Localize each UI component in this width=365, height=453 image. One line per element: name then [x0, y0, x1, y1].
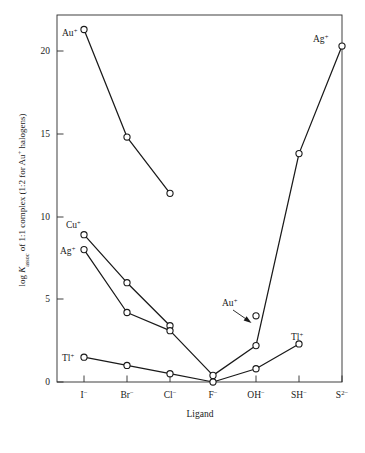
data-point-marker — [253, 366, 259, 372]
y-title-subscript: assoc — [23, 253, 30, 267]
data-point-marker — [167, 328, 173, 334]
inline-label-ag-right: Ag+ — [313, 33, 329, 45]
data-point-marker — [296, 151, 302, 157]
data-point-marker — [124, 309, 130, 315]
y-axis-title: log Kassoc of 1:1 complex (1:2 for Au+ h… — [16, 113, 30, 286]
inline-label-ag-left: Ag+ — [60, 245, 76, 257]
y-tick-label-15: 15 — [41, 129, 51, 139]
data-point-marker — [167, 190, 173, 196]
annotation-label-au-base: Au — [222, 298, 234, 308]
y-title-suffix: of 1:1 complex (1:2 for Au — [17, 154, 27, 253]
inline-label-cu-base: Cu — [66, 220, 77, 230]
inline-label-tl-left-sup: + — [70, 352, 74, 359]
series-markers — [81, 26, 345, 385]
inline-label-cu: Cu+ — [66, 219, 81, 231]
x-label-sh-base: SH — [291, 390, 303, 400]
inline-label-tl-right-sup: + — [299, 331, 303, 338]
inline-label-ag-right-base: Ag — [313, 34, 325, 44]
data-point-marker — [81, 232, 87, 238]
annotation-arrow-head — [244, 316, 252, 323]
data-point-marker — [253, 342, 259, 348]
data-point-marker — [253, 313, 259, 319]
data-point-marker — [210, 372, 216, 378]
x-label-f: F− — [208, 389, 217, 401]
y-tick-label-0: 0 — [45, 377, 50, 387]
y-tick-label-5: 5 — [45, 294, 50, 304]
au-oh-annotation: Au+ — [222, 297, 252, 324]
x-label-i: I− — [81, 389, 88, 401]
x-label-cl-sup: − — [173, 389, 177, 396]
series-line-au — [84, 29, 170, 193]
y-tick-label-20: 20 — [41, 46, 51, 56]
x-label-cl-base: Cl — [164, 390, 173, 400]
inline-label-ag-left-base: Ag — [60, 246, 72, 256]
x-label-oh-sup: − — [261, 389, 265, 396]
inline-label-cu-sup: + — [77, 219, 81, 226]
data-point-marker — [339, 43, 345, 49]
inline-label-au-left-base: Au — [62, 28, 74, 38]
chart-figure: 0 5 10 15 20 log Kassoc of 1:1 complex (… — [0, 0, 365, 453]
series-line-ag — [84, 46, 342, 375]
data-point-marker — [124, 134, 130, 140]
inline-label-au-left: Au+ — [62, 27, 78, 39]
x-label-br: Br− — [120, 389, 134, 401]
y-axis-title-group: log Kassoc of 1:1 complex (1:2 for Au+ h… — [16, 113, 30, 286]
x-label-sh: SH− — [291, 389, 307, 401]
x-axis-title: Ligand — [187, 409, 214, 419]
x-label-s2: S2− — [336, 389, 349, 401]
x-label-f-sup: − — [214, 389, 218, 396]
series-line-tl — [84, 344, 299, 382]
inline-labels: Au+ Ag+ Cu+ Ag+ Tl+ Tl+ — [60, 27, 329, 364]
inline-label-tl-left: Tl+ — [62, 352, 74, 364]
ligand-association-constant-chart: 0 5 10 15 20 log Kassoc of 1:1 complex (… — [0, 0, 365, 453]
data-point-marker — [124, 280, 130, 286]
inline-label-au-left-sup: + — [74, 27, 78, 34]
x-label-s2-sup: 2− — [341, 389, 348, 396]
data-point-marker — [210, 379, 216, 385]
data-point-marker — [124, 362, 130, 368]
inline-label-ag-left-sup: + — [72, 245, 76, 252]
y-tick-label-10: 10 — [41, 212, 51, 222]
y-title-tail: halogens) — [17, 113, 27, 150]
data-point-marker — [167, 371, 173, 377]
x-label-br-sup: − — [130, 389, 134, 396]
data-point-marker — [81, 354, 87, 360]
annotation-label-au-sup: + — [234, 297, 238, 304]
x-label-cl: Cl− — [164, 389, 177, 401]
inline-label-tl-right: Tl+ — [291, 331, 303, 343]
y-axis: 0 5 10 15 20 — [41, 46, 64, 387]
series-group — [81, 26, 345, 385]
x-label-sh-sup: − — [303, 389, 307, 396]
x-label-oh-base: OH — [247, 390, 261, 400]
inline-label-ag-right-sup: + — [325, 33, 329, 40]
data-point-marker — [81, 26, 87, 32]
x-label-i-sup: − — [84, 389, 88, 396]
data-point-marker — [81, 247, 87, 253]
y-title-prefix: log — [17, 273, 27, 287]
x-label-oh: OH− — [247, 389, 265, 401]
annotation-label-au: Au+ — [222, 297, 238, 309]
